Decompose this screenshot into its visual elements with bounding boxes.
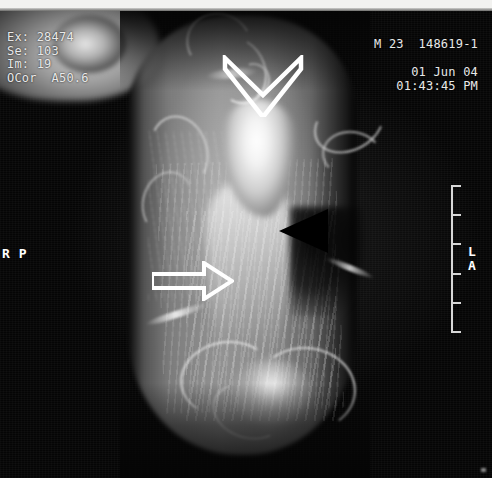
image-artifact-speck xyxy=(481,468,486,472)
orientation-anterior-label: A xyxy=(468,258,476,273)
study-time-text: 01:43:45 PM xyxy=(396,79,478,93)
orientation-marker-right: L A xyxy=(468,245,492,273)
scale-ruler-tick xyxy=(451,302,461,304)
dicom-viewport: Ex: 28474 Se: 103 Im: 19 OCor A50.6 M 23… xyxy=(0,0,492,478)
open-arrow-marker xyxy=(152,261,234,301)
scale-ruler xyxy=(451,185,465,333)
mr-image-canvas: Ex: 28474 Se: 103 Im: 19 OCor A50.6 M 23… xyxy=(0,11,492,478)
scale-ruler-tick xyxy=(451,243,461,245)
orientation-posterior-label: P xyxy=(19,246,27,261)
orientation-right-label: R xyxy=(2,246,10,261)
study-info-overlay: Ex: 28474 Se: 103 Im: 19 OCor A50.6 xyxy=(7,31,89,85)
scale-ruler-tick xyxy=(451,185,461,187)
open-chevron-marker xyxy=(222,55,304,117)
study-id-text: Ex: 28474 xyxy=(7,30,74,44)
image-fade-inferior xyxy=(120,383,370,478)
scan-plane-text: OCor A50.6 xyxy=(7,71,89,85)
solid-arrowhead-marker xyxy=(278,209,330,253)
accession-number-text: 148619-1 xyxy=(419,37,478,51)
scale-ruler-tick xyxy=(451,273,461,275)
patient-info-overlay: M 23 148619-1 xyxy=(374,38,478,52)
scale-ruler-tick xyxy=(451,214,461,216)
orientation-left-label: L xyxy=(468,244,476,259)
scale-ruler-spine xyxy=(451,185,453,333)
series-id-text: Se: 103 xyxy=(7,44,59,58)
study-date-text: 01 Jun 04 xyxy=(411,65,478,79)
orientation-marker-left: R P xyxy=(2,247,27,261)
scale-ruler-tick xyxy=(451,331,461,333)
timestamp-overlay: 01 Jun 04 01:43:45 PM xyxy=(396,66,478,93)
patient-sex-age-text: M 23 xyxy=(374,37,404,51)
image-number-text: Im: 19 xyxy=(7,57,52,71)
